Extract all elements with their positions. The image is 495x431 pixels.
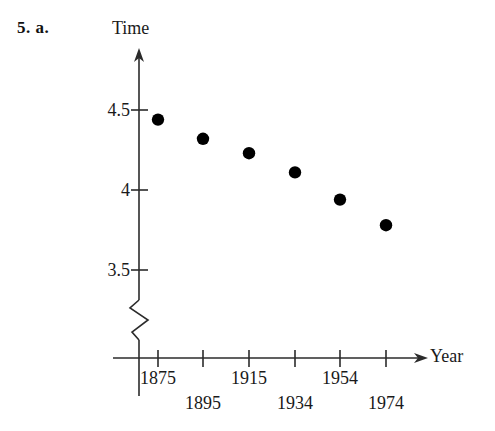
data-point-1915 <box>243 147 255 159</box>
data-point-1974 <box>380 219 392 231</box>
data-points-group <box>152 113 392 231</box>
y-axis-break-icon <box>130 300 148 340</box>
data-point-1895 <box>197 133 209 145</box>
data-point-1875 <box>152 113 164 125</box>
data-point-1934 <box>289 166 301 178</box>
data-point-1954 <box>334 193 346 205</box>
scatter-plot-figure: 5. a. Time Year 4.5 4 3.5 1875 1895 1915… <box>0 0 495 431</box>
plot-canvas <box>0 0 495 431</box>
